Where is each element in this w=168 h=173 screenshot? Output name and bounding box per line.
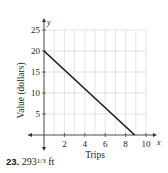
x-tick-label: 8 [123,139,128,149]
y-axis-label: Value (dollars) [16,62,27,118]
x-axis-left-arrow-icon [28,133,32,137]
answer-whole: 293 [22,156,37,167]
x-tick-label: 2 [62,139,67,149]
line-chart: 246810510152025yxTripsValue (dollars) [0,0,168,173]
answer-unit: ft [48,156,54,167]
y-tick-label: 10 [31,88,41,98]
x-tick-label: 4 [83,139,88,149]
answer-caption: 23. 2931/3 ft [6,156,54,167]
x-axis-symbol: x [156,138,161,147]
y-tick-label: 15 [31,67,41,77]
y-tick-label: 25 [31,25,41,35]
y-tick-label: 5 [36,109,41,119]
x-axis-arrow-icon [153,133,157,137]
problem-number: 23. [6,156,19,167]
y-tick-label: 20 [31,46,41,56]
x-tick-label: 10 [142,139,152,149]
x-axis-label: Trips [85,150,105,160]
x-tick-label: 6 [103,139,108,149]
y-axis-down-arrow-icon [42,147,46,151]
y-axis-arrow-icon [42,18,46,22]
y-axis-symbol: y [46,18,51,27]
answer-fraction: 1/3 [37,157,46,165]
